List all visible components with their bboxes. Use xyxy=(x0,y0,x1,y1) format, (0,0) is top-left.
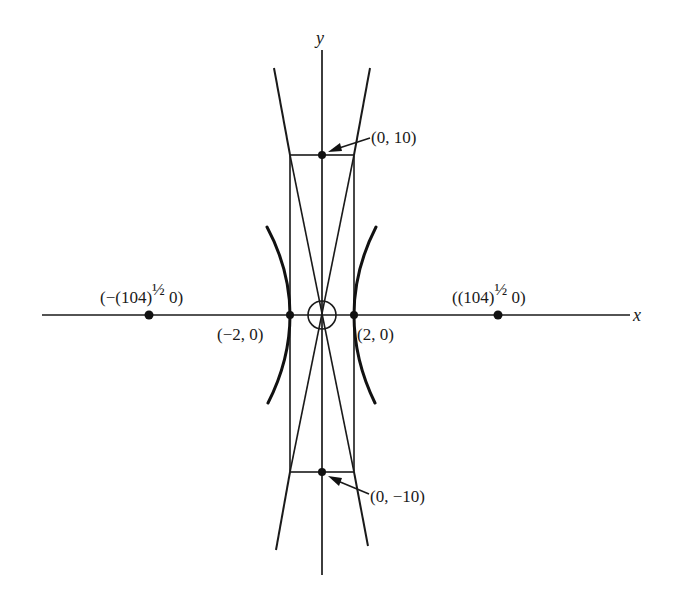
right-focus-label-tail: 0) xyxy=(507,288,525,307)
x-axis-label: x xyxy=(632,305,641,325)
arrowhead-icon xyxy=(328,476,342,486)
arrow-to-bottom-covertex xyxy=(328,476,369,494)
right-vertex-point xyxy=(350,311,358,319)
right-focus-label: ((104)½ 0) xyxy=(452,280,526,307)
asymptote-upper-left xyxy=(274,68,290,155)
bottom-covertex-point xyxy=(318,468,326,476)
left-focus-label-tail: 0) xyxy=(165,288,183,307)
left-focus-label: (−(104)½ 0) xyxy=(100,280,183,307)
left-focus-label-exponent: ½ xyxy=(152,280,165,299)
bottom-covertex-label: (0, −10) xyxy=(370,487,425,506)
left-vertex-point xyxy=(286,311,294,319)
y-axis-label: y xyxy=(314,28,324,48)
right-focus-point xyxy=(494,311,503,320)
right-focus-label-main: ((104) xyxy=(452,288,494,307)
hyperbola-diagram: x y (−(10 xyxy=(0,0,679,602)
asymptote-lower-right xyxy=(354,472,368,546)
left-focus-point xyxy=(145,311,154,320)
arrow-to-top-covertex xyxy=(328,138,370,152)
left-vertex-label: (−2, 0) xyxy=(217,325,263,344)
right-vertex-label: (2, 0) xyxy=(357,325,394,344)
top-covertex-label: (0, 10) xyxy=(371,128,416,147)
right-focus-label-exponent: ½ xyxy=(494,280,507,299)
left-focus-label-main: (−(104) xyxy=(100,288,152,307)
arrowhead-icon xyxy=(328,143,342,152)
top-covertex-point xyxy=(318,151,326,159)
asymptote-lower-left xyxy=(276,472,290,550)
